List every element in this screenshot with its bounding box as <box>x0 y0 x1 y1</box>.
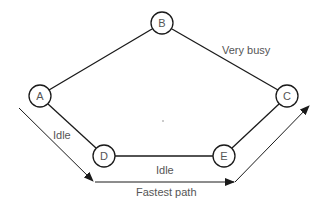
node-b-label: B <box>158 17 165 29</box>
arrow-right-up <box>235 106 309 182</box>
network-diagram: A B C D E Very busy Idle Idle Fastest pa… <box>0 0 330 204</box>
node-e: E <box>213 145 235 167</box>
edge-a-d <box>48 104 96 148</box>
node-c-label: C <box>283 90 291 102</box>
edge-e-c <box>232 104 279 148</box>
node-d: D <box>93 145 115 167</box>
label-idle-left: Idle <box>53 129 71 141</box>
label-idle-bottom: Idle <box>156 164 174 176</box>
edge-b-c <box>172 29 278 90</box>
node-c: C <box>276 85 298 107</box>
stray-dot <box>162 120 164 122</box>
label-fastest-path: Fastest path <box>136 186 197 198</box>
node-d-label: D <box>100 150 108 162</box>
node-a-label: A <box>36 90 44 102</box>
edge-a-b <box>49 29 152 90</box>
label-very-busy: Very busy <box>222 44 271 56</box>
node-b: B <box>151 12 173 34</box>
node-a: A <box>29 85 51 107</box>
arrow-left-down <box>19 108 93 181</box>
node-e-label: E <box>220 150 227 162</box>
